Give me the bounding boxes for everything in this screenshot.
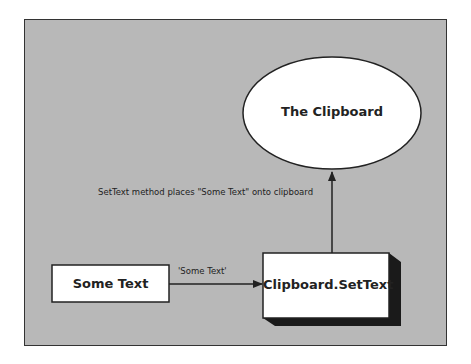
- settext-label: Clipboard.SetText: [263, 277, 389, 292]
- arrow-label: 'Some Text': [178, 266, 227, 276]
- some-text-label: Some Text: [52, 276, 169, 291]
- clipboard-label: The Clipboard: [243, 104, 421, 119]
- settext-caption: SetText method places "Some Text" onto c…: [98, 187, 313, 197]
- diagram-shapes: [0, 0, 471, 364]
